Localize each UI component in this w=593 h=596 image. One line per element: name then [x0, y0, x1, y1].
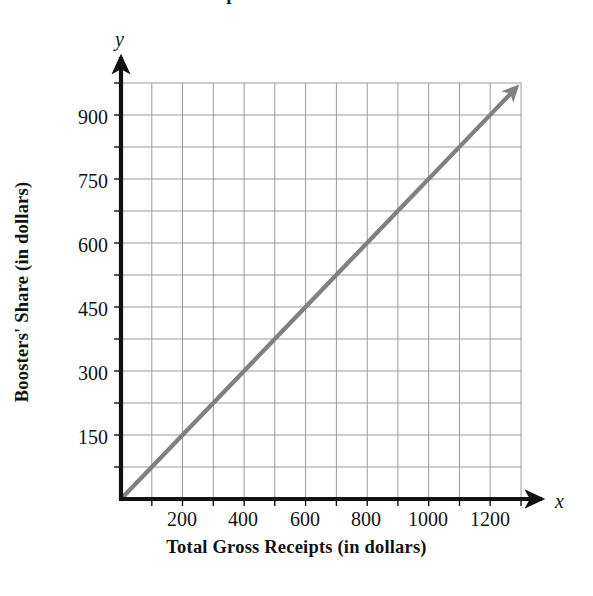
x-tick-label-800: 800 — [335, 508, 397, 531]
x-tick-label-600: 600 — [274, 508, 336, 531]
y-tick-label-450: 450 — [48, 298, 108, 321]
y-tick-label-900: 900 — [48, 106, 108, 129]
y-axis-title-container: Boosters' Share (in dollars) — [0, 0, 44, 596]
y-tick-label-750: 750 — [48, 170, 108, 193]
y-tick-label-300: 300 — [48, 362, 108, 385]
y-tick-label-150: 150 — [48, 426, 108, 449]
x-axis-title: Total Gross Receipts (in dollars) — [0, 537, 593, 558]
grid-vertical — [152, 83, 521, 499]
y-axis-title: Boosters' Share (in dollars) — [12, 182, 33, 403]
y-axis-variable-label: y — [115, 28, 124, 51]
data-line-boosters-share — [121, 88, 516, 499]
x-tick-label-400: 400 — [212, 508, 274, 531]
y-tick-label-600: 600 — [48, 234, 108, 257]
grid-horizontal — [121, 83, 521, 467]
x-tick-label-1200: 1200 — [459, 508, 521, 531]
x-tick-label-200: 200 — [151, 508, 213, 531]
x-tick-label-1000: 1000 — [397, 508, 459, 531]
x-axis-variable-label: x — [555, 490, 564, 513]
